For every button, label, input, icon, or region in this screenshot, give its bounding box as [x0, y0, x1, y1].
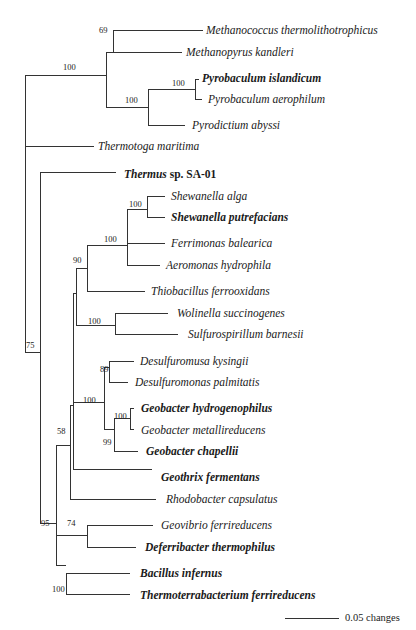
bootstrap-value: 100 [52, 585, 65, 594]
taxon-label-wolinella: Wolinella succinogenes [177, 307, 285, 319]
bootstrap-value: 100 [125, 96, 138, 105]
taxon-label-ferrimonas: Ferrimonas balearica [171, 237, 272, 249]
taxon-label-sulfurospirillum: Sulfurospirillum barnesii [188, 328, 304, 340]
bootstrap-value: 100 [129, 200, 142, 209]
taxon-label-desulfuromusa: Desulfuromusa kysingii [140, 355, 249, 367]
bootstrap-value: 58 [57, 427, 66, 436]
bootstrap-value: 75 [26, 341, 35, 350]
taxon-label-methanococcus: Methanococcus thermolithotrophicus [206, 24, 378, 36]
taxon-label-thermoterrabacterium: Thermoterrabacterium ferrireducens [140, 589, 315, 601]
taxon-label-geobacter-hydrogenophilus: Geobacter hydrogenophilus [141, 402, 272, 414]
bootstrap-value: 100 [114, 412, 127, 421]
bootstrap-value: 90 [73, 256, 82, 265]
taxon-label-pyrobaculum-aerophilum: Pyrobaculum aerophilum [208, 93, 325, 105]
bootstrap-value: 74 [67, 519, 76, 528]
taxon-label-thermotoga: Thermotoga maritima [98, 140, 199, 152]
taxon-label-desulfuromonas: Desulfuromonas palmitatis [135, 376, 259, 388]
taxon-label-geovibrio: Geovibrio ferrireducens [161, 519, 272, 531]
taxon-label-aeromonas: Aeromonas hydrophila [166, 259, 271, 271]
bootstrap-value: 100 [83, 396, 96, 405]
taxon-label-shewanella-putrefacians: Shewanella putrefacians [171, 211, 288, 223]
bootstrap-value: 100 [172, 79, 185, 88]
taxon-label-geothrix: Geothrix fermentans [161, 471, 260, 483]
taxon-label-pyrodictium: Pyrodictium abyssi [192, 119, 280, 131]
taxon-label-methanopyrus: Methanopyrus kandleri [186, 46, 294, 58]
taxon-label-thiobacillus: Thiobacillus ferrooxidans [151, 285, 270, 297]
scale-bar-label: 0.05 changes [345, 612, 400, 624]
bootstrap-value: 99 [103, 438, 112, 447]
taxon-label-pyrobaculum-islandicum: Pyrobaculum islandicum [202, 72, 321, 84]
taxon-label-deferribacter: Deferribacter thermophilus [145, 541, 275, 553]
taxon-label-shewanella-alga: Shewanella alga [171, 190, 247, 202]
bootstrap-value: 95 [41, 519, 50, 528]
taxon-label-suffix: sp. SA-01 [167, 168, 217, 180]
bootstrap-value: 100 [88, 317, 101, 326]
bootstrap-value: 100 [63, 63, 76, 72]
taxon-label-geobacter-chapellii: Geobacter chapellii [146, 445, 238, 457]
bootstrap-value: 100 [104, 235, 117, 244]
bootstrap-value: 69 [99, 26, 108, 35]
bootstrap-value: 89 [100, 365, 109, 374]
taxon-label-thermus: Thermus sp. SA-01 [124, 168, 216, 180]
taxon-label-geobacter-metallireducens: Geobacter metallireducens [141, 424, 265, 436]
taxon-label-rhodobacter: Rhodobacter capsulatus [166, 493, 277, 505]
taxon-label-bacillus: Bacillus infernus [140, 567, 222, 579]
